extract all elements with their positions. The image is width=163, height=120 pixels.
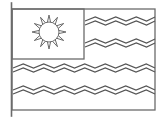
coloring-page-canvas xyxy=(0,0,163,120)
flag-line-drawing xyxy=(0,0,163,120)
